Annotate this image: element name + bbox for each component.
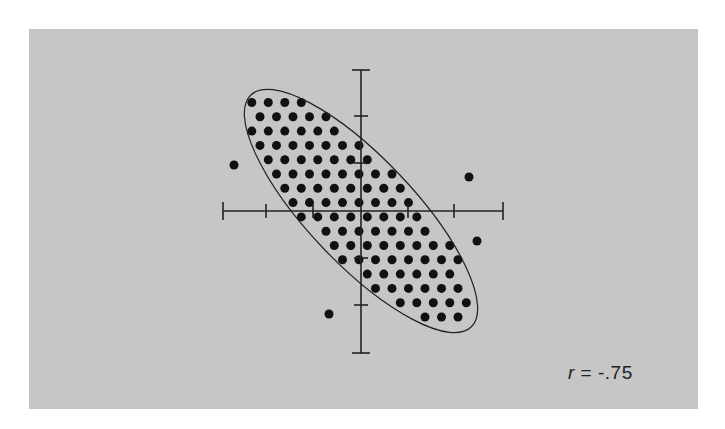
- data-point: [247, 127, 256, 136]
- ellipse-dot-cloud: [247, 98, 470, 322]
- data-point: [421, 255, 430, 264]
- data-point: [396, 241, 405, 250]
- data-point: [396, 184, 405, 193]
- data-point: [289, 141, 298, 150]
- data-point: [388, 284, 397, 293]
- data-point: [396, 270, 405, 279]
- data-point: [388, 198, 397, 207]
- data-point: [429, 270, 438, 279]
- data-point: [272, 112, 281, 121]
- data-point: [445, 298, 454, 307]
- data-point: [371, 170, 380, 179]
- data-point: [280, 184, 289, 193]
- data-point: [264, 127, 273, 136]
- data-point: [388, 227, 397, 236]
- data-point: [355, 227, 364, 236]
- data-point: [445, 270, 454, 279]
- data-point: [256, 141, 265, 150]
- data-point: [322, 198, 331, 207]
- scatter-plot: [29, 29, 698, 409]
- data-point: [322, 170, 331, 179]
- data-point: [322, 227, 331, 236]
- data-point: [272, 141, 281, 150]
- data-point: [462, 298, 471, 307]
- data-point: [379, 184, 388, 193]
- data-point: [346, 212, 355, 221]
- data-point: [289, 170, 298, 179]
- data-point: [404, 255, 413, 264]
- data-point: [305, 170, 314, 179]
- data-point: [404, 284, 413, 293]
- data-point: [330, 155, 339, 164]
- correlation-label: r = -.75: [568, 362, 633, 384]
- data-point: [404, 227, 413, 236]
- data-point: [313, 155, 322, 164]
- data-point: [313, 127, 322, 136]
- data-point: [346, 241, 355, 250]
- data-point: [355, 141, 364, 150]
- outlier-point: [325, 310, 334, 319]
- data-point: [322, 141, 331, 150]
- data-point: [379, 241, 388, 250]
- figure-panel: r = -.75: [29, 29, 698, 409]
- data-point: [338, 141, 347, 150]
- r-variable: r: [568, 362, 575, 383]
- data-point: [355, 255, 364, 264]
- data-point: [388, 255, 397, 264]
- r-value: -.75: [598, 362, 633, 383]
- data-point: [297, 127, 306, 136]
- data-point: [437, 313, 446, 322]
- data-point: [289, 198, 298, 207]
- data-point: [379, 212, 388, 221]
- data-point: [338, 255, 347, 264]
- outlier-point: [465, 173, 474, 182]
- data-point: [264, 155, 273, 164]
- data-point: [280, 98, 289, 107]
- crosshair-axes: [223, 70, 503, 353]
- data-point: [280, 127, 289, 136]
- data-point: [247, 98, 256, 107]
- data-point: [264, 98, 273, 107]
- data-point: [429, 241, 438, 250]
- outlier-point: [473, 237, 482, 246]
- data-point: [363, 241, 372, 250]
- data-point: [396, 212, 405, 221]
- data-point: [371, 284, 380, 293]
- data-point: [330, 184, 339, 193]
- data-point: [297, 98, 306, 107]
- data-point: [363, 270, 372, 279]
- data-point: [379, 270, 388, 279]
- data-point: [297, 155, 306, 164]
- data-point: [305, 141, 314, 150]
- data-point: [421, 227, 430, 236]
- data-point: [371, 227, 380, 236]
- data-point: [454, 313, 463, 322]
- data-point: [412, 241, 421, 250]
- data-point: [330, 212, 339, 221]
- data-point: [412, 298, 421, 307]
- data-point: [412, 270, 421, 279]
- data-point: [454, 284, 463, 293]
- data-point: [313, 184, 322, 193]
- data-point: [330, 241, 339, 250]
- data-point: [289, 112, 298, 121]
- data-point: [305, 112, 314, 121]
- data-point: [371, 198, 380, 207]
- data-point: [297, 184, 306, 193]
- equals-sign: =: [575, 362, 598, 383]
- data-point: [256, 112, 265, 121]
- data-point: [396, 298, 405, 307]
- data-point: [346, 184, 355, 193]
- data-point: [272, 170, 281, 179]
- data-point: [412, 212, 421, 221]
- data-point: [437, 284, 446, 293]
- outlier-points: [230, 161, 482, 319]
- data-point: [437, 255, 446, 264]
- data-point: [330, 127, 339, 136]
- data-point: [429, 298, 438, 307]
- data-point: [355, 170, 364, 179]
- data-point: [371, 255, 380, 264]
- data-point: [421, 284, 430, 293]
- data-point: [313, 212, 322, 221]
- data-point: [346, 155, 355, 164]
